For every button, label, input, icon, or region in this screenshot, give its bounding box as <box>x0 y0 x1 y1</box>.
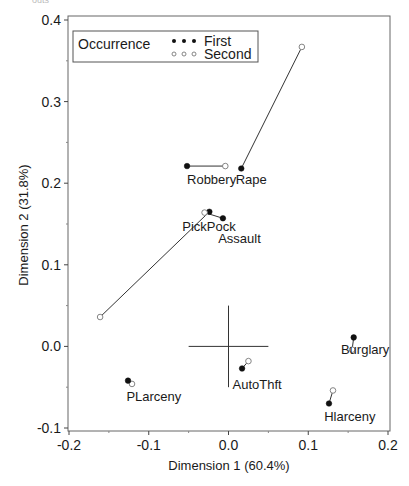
x-tick-label: 0.0 <box>219 437 239 453</box>
y-tick-label: 0.0 <box>42 338 62 354</box>
y-tick-label: 0.4 <box>42 12 62 28</box>
reference-cross <box>189 306 269 388</box>
point-labels: RobberyRapePickPockAssaultBurglaryAutoTh… <box>126 172 389 424</box>
y-tick-label: 0.2 <box>42 175 62 191</box>
correspondence-plot: outs -0.2-0.10.00.10.2 -0.10.00.10.20.30… <box>0 0 409 486</box>
first-marker-autothft <box>239 366 245 372</box>
legend-open-circle-icon <box>192 52 196 56</box>
legend-filled-circle-icon <box>182 39 186 43</box>
first-marker-robbery <box>184 163 190 169</box>
second-marker-rape <box>299 44 305 50</box>
label-plarceny: PLarceny <box>126 389 181 404</box>
second-marker-assault <box>202 210 208 216</box>
cropped-header-text: outs <box>32 0 50 5</box>
y-tick-label: 0.1 <box>42 257 62 273</box>
label-robbery: Robbery <box>187 172 237 187</box>
second-marker-pickpock <box>97 314 103 320</box>
x-tick-label: -0.2 <box>57 437 81 453</box>
legend-label-second: Second <box>204 46 251 62</box>
x-tick-label: 0.2 <box>378 437 398 453</box>
y-axis-title: Dimension 2 (31.8%) <box>16 164 31 285</box>
y-tick-label: 0.3 <box>42 94 62 110</box>
legend-filled-circle-icon <box>192 39 196 43</box>
first-marker-burglary <box>351 335 357 341</box>
legend-open-circle-icon <box>182 52 186 56</box>
x-tick-label: 0.1 <box>299 437 319 453</box>
x-axis-title: Dimension 1 (60.4%) <box>168 458 289 473</box>
label-autothft: AutoThft <box>232 377 282 392</box>
label-hlarceny: Hlarceny <box>324 409 376 424</box>
label-assault: Assault <box>218 231 261 246</box>
label-rape: Rape <box>236 172 267 187</box>
first-marker-hlarceny <box>326 401 332 407</box>
y-axis: -0.10.00.10.20.30.4 <box>37 12 68 436</box>
connector-rape <box>241 47 302 169</box>
second-marker-hlarceny <box>330 388 336 394</box>
legend: Occurrence FirstSecond <box>73 31 258 62</box>
x-axis: -0.2-0.10.00.10.2 <box>57 431 398 453</box>
first-marker-plarceny <box>125 378 131 384</box>
legend-title: Occurrence <box>78 36 151 52</box>
second-marker-autothft <box>246 358 252 364</box>
legend-open-circle-icon <box>172 52 176 56</box>
y-tick-label: -0.1 <box>37 420 61 436</box>
second-marker-robbery <box>223 163 229 169</box>
legend-filled-circle-icon <box>172 39 176 43</box>
first-marker-rape <box>238 166 244 172</box>
label-burglary: Burglary <box>341 342 390 357</box>
x-tick-label: -0.1 <box>137 437 161 453</box>
